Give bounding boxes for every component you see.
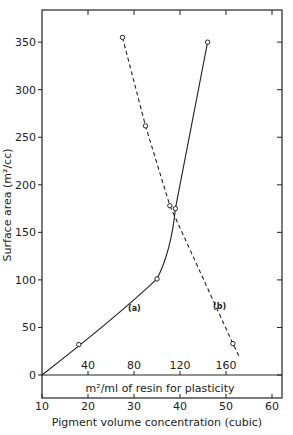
data-point-marker xyxy=(231,341,235,345)
data-series xyxy=(42,35,240,375)
data-point-marker xyxy=(205,40,209,44)
y-tick-label: 250 xyxy=(15,131,36,144)
x-tick-label: 20 xyxy=(81,400,95,413)
secondary-tick-label: 80 xyxy=(127,359,141,372)
data-point-marker xyxy=(168,204,172,208)
curve-a-line xyxy=(42,42,208,375)
y-axis-ticks: 050100150200250300350 xyxy=(15,36,282,382)
y-tick-label: 50 xyxy=(22,321,36,334)
data-point-marker xyxy=(77,342,81,346)
data-point-marker xyxy=(173,206,177,210)
x-tick-label: 10 xyxy=(35,400,49,413)
curve-a-label: (a) xyxy=(128,304,141,313)
y-tick-label: 300 xyxy=(15,84,36,97)
secondary-tick-label: 160 xyxy=(216,359,237,372)
data-point-marker xyxy=(155,277,159,281)
chart: 050100150200250300350 102030405060 40801… xyxy=(0,0,293,435)
y-tick-label: 350 xyxy=(15,36,36,49)
secondary-x-axis-label: m²/ml of resin for plasticity xyxy=(86,382,235,395)
x-tick-label: 40 xyxy=(173,400,187,413)
secondary-tick-label: 40 xyxy=(81,359,95,372)
y-axis-label: Surface area (m²/cc) xyxy=(1,149,14,262)
y-tick-label: 0 xyxy=(29,369,36,382)
x-axis-label: Pigment volume concentration (cubic) xyxy=(52,416,262,429)
curve-b-label: (b) xyxy=(213,302,226,311)
data-point-marker xyxy=(120,35,124,39)
secondary-tick-label: 120 xyxy=(170,359,191,372)
plot-frame xyxy=(42,10,282,398)
data-point-marker xyxy=(143,124,147,128)
x-tick-label: 30 xyxy=(127,400,141,413)
y-tick-label: 100 xyxy=(15,274,36,287)
plot-border xyxy=(42,10,282,398)
y-tick-label: 150 xyxy=(15,226,36,239)
x-tick-label: 50 xyxy=(219,400,233,413)
y-tick-label: 200 xyxy=(15,179,36,192)
secondary-x-axis-ticks: 4080120160 xyxy=(81,359,237,375)
x-tick-label: 60 xyxy=(265,400,279,413)
x-axis-ticks: 102030405060 xyxy=(35,394,279,413)
